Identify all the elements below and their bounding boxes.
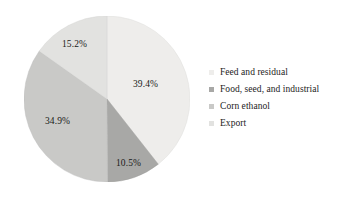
slice-value-label-feed-and-residual: 39.4% — [133, 79, 158, 89]
legend-swatch-icon — [209, 87, 214, 92]
legend-label: Feed and residual — [220, 67, 288, 77]
legend-swatch-icon — [209, 104, 214, 109]
slice-value-label-corn-ethanol: 34.9% — [45, 116, 70, 126]
slice-value-label-food-seed-and-industrial: 10.5% — [116, 158, 141, 168]
pie-svg — [24, 16, 190, 182]
legend-item-export[interactable]: Export — [209, 114, 344, 131]
legend-swatch-icon — [209, 121, 214, 126]
pie-chart-figure: 39.4% 10.5% 34.9% 15.2% Feed and residua… — [0, 0, 344, 198]
slice-value-label-export: 15.2% — [62, 39, 87, 49]
legend-label: Corn ethanol — [220, 101, 270, 111]
pie-slices — [24, 16, 190, 182]
legend-label: Food, seed, and industrial — [220, 84, 319, 94]
legend-swatch-icon — [209, 70, 214, 75]
legend-label: Export — [220, 118, 246, 128]
pie-plot-area: 39.4% 10.5% 34.9% 15.2% — [0, 0, 214, 198]
legend-item-corn-ethanol[interactable]: Corn ethanol — [209, 97, 344, 114]
chart-legend: Feed and residual Food, seed, and indust… — [209, 63, 344, 131]
legend-item-food-seed-and-industrial[interactable]: Food, seed, and industrial — [209, 80, 344, 97]
legend-item-feed-and-residual[interactable]: Feed and residual — [209, 63, 344, 80]
